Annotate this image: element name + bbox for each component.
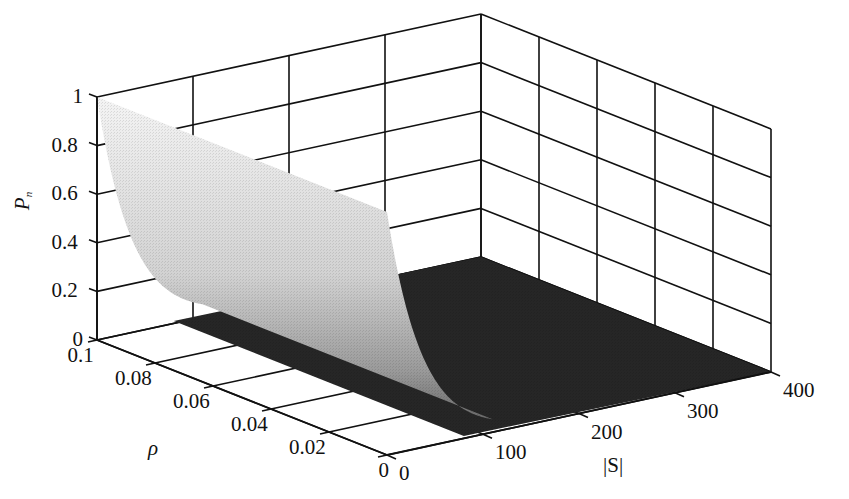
rho-tick (378, 455, 387, 457)
rho-tick (262, 409, 271, 411)
rho-tick (320, 432, 329, 434)
rho-tick-label: 0.08 (115, 368, 152, 389)
rho-tick-label: 0.1 (68, 345, 94, 366)
y-axis-title: ρ (148, 438, 158, 459)
right-wall-gridline (481, 160, 771, 275)
z-tick-label: 0.6 (52, 183, 78, 204)
right-wall-gridline (481, 111, 771, 226)
rho-tick (204, 386, 213, 388)
rho-tick-label: 0 (379, 460, 390, 481)
z-tick-label: 1 (73, 86, 84, 107)
z-tick (89, 143, 97, 146)
z-axis-title: Pn (12, 192, 34, 210)
rho-tick-label: 0.04 (231, 414, 268, 435)
z-tick (89, 191, 97, 194)
s-tick (771, 372, 780, 376)
z-tick (89, 240, 97, 243)
x-axis-title: |S| (603, 455, 623, 476)
s-tick (483, 434, 492, 438)
s-tick (579, 414, 588, 418)
z-axis-title-sub: n (22, 192, 34, 198)
s-tick-label: 300 (687, 401, 719, 422)
z-tick-label: 0.8 (52, 135, 78, 156)
z-tick-label: 0.2 (52, 280, 78, 301)
z-axis-title-main: P (10, 197, 34, 210)
rho-tick-label: 0.02 (289, 437, 326, 458)
right-wall-gridline (481, 14, 771, 129)
right-wall-gridline (481, 63, 771, 178)
z-tick-label: 0.4 (52, 232, 78, 253)
rho-tick (146, 363, 155, 365)
rho-tick-label: 0.06 (173, 391, 210, 412)
s-tick-label: 400 (783, 380, 815, 401)
surface-plot (0, 0, 849, 499)
z-tick (89, 288, 97, 291)
s-tick-label: 100 (495, 442, 527, 463)
s-tick-label: 0 (399, 463, 410, 484)
z-tick (89, 94, 97, 97)
s-tick (675, 393, 684, 397)
rho-tick (88, 340, 97, 342)
s-tick-label: 200 (591, 422, 623, 443)
